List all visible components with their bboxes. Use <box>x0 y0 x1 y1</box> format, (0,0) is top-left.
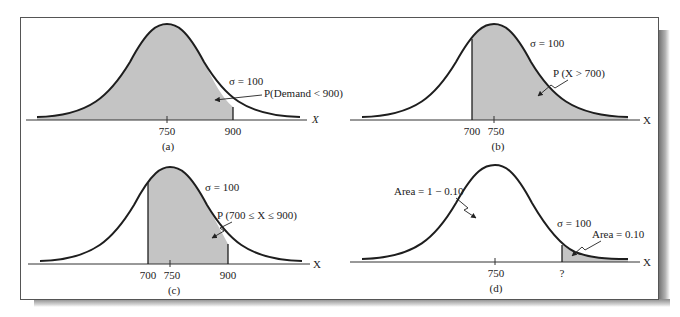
axis-label-c: X <box>313 258 321 270</box>
sigma-label-d: σ = 100 <box>557 217 592 229</box>
normal-distribution-figure: X 750 900 (a) σ = 100 P(Demand < 900) X … <box>0 0 680 317</box>
annotation-b: P (X > 700) <box>553 67 605 80</box>
axis-label-d: X <box>643 256 651 268</box>
tick-label-900-a: 900 <box>225 125 242 137</box>
sigma-label-a: σ = 100 <box>229 75 264 87</box>
panel-b: X 700 750 (b) σ = 100 P (X > 700) <box>350 24 651 153</box>
annotation-unshaded-d: Area = 1 − 0.10 <box>394 185 464 197</box>
caption-a: (a) <box>162 140 175 153</box>
annotation-c: P (700 ≤ X ≤ 900) <box>217 209 297 222</box>
caption-b: (b) <box>492 140 505 153</box>
tick-label-750-b: 750 <box>488 125 505 137</box>
tick-label-750-a: 750 <box>159 125 176 137</box>
sigma-label-b: σ = 100 <box>530 37 565 49</box>
panel-c: X 700 750 900 (c) σ = 100 P (700 ≤ X ≤ 9… <box>28 167 321 297</box>
tick-label-700-c: 700 <box>140 269 157 281</box>
caption-c: (c) <box>168 284 181 297</box>
normal-curve-d <box>362 165 628 259</box>
tick-label-750-c: 750 <box>164 269 181 281</box>
shaded-area-a <box>37 24 233 120</box>
annotation-shaded-d: Area = 0.10 <box>592 228 645 240</box>
sigma-label-c: σ = 100 <box>205 181 240 193</box>
annotation-arrow-unshaded-d <box>456 198 476 218</box>
panel-a: X 750 900 (a) σ = 100 P(Demand < 900) <box>26 24 343 153</box>
axis-label-a: X <box>311 113 320 125</box>
tick-label-700-b: 700 <box>464 125 481 137</box>
tick-label-900-c: 900 <box>220 269 237 281</box>
caption-d: (d) <box>490 282 503 295</box>
tick-label-unknown-d: ? <box>560 267 565 279</box>
axis-label-b: X <box>643 114 651 126</box>
tick-label-750-d: 750 <box>488 267 505 279</box>
annotation-a: P(Demand < 900) <box>264 87 343 100</box>
panel-d: X 750 ? (d) Area = 1 − 0.10 σ = 100 Area… <box>350 165 651 295</box>
